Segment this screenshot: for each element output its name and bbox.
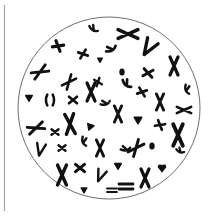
- chromosome-xlong: [87, 83, 95, 101]
- chromosome-bent: [80, 135, 89, 146]
- chromosome-bent: [121, 78, 133, 89]
- chromosome-bent: [183, 83, 192, 94]
- microscope-field-circle: [18, 17, 200, 199]
- chromosome-xlong: [114, 106, 121, 122]
- chromosome-xlong: [27, 122, 45, 134]
- chromosome-cross: [76, 164, 85, 171]
- chromosome-xlong: [118, 30, 138, 39]
- chromosome-xlong: [177, 107, 191, 113]
- chromosome-tri: [26, 96, 32, 102]
- chromosome-cross: [52, 41, 63, 52]
- chromosome-xlong: [65, 114, 75, 134]
- chromosome-cross: [52, 129, 59, 135]
- chromosome-v: [94, 169, 106, 183]
- chromosome-bent: [104, 42, 116, 53]
- chromosome-xlong: [170, 57, 178, 75]
- chromosome-tri: [86, 124, 94, 131]
- chromosome-eq: [119, 184, 133, 189]
- chromosome-v: [35, 143, 46, 156]
- chromosome-v: [139, 38, 158, 58]
- chromosome-heart: [158, 165, 165, 172]
- chromosome-cross: [69, 97, 77, 103]
- metaphase-spread-figure: [0, 0, 215, 216]
- chromosome-xlong: [58, 165, 67, 185]
- chromosome-tri: [115, 164, 121, 170]
- chromosome-cross: [78, 50, 88, 59]
- chromosome-tri: [81, 188, 87, 193]
- chromosome-xlong: [173, 124, 183, 146]
- chromosome-xlong: [31, 65, 49, 79]
- chromosome-cross: [155, 120, 165, 130]
- chromosome-bent: [99, 97, 110, 106]
- chromosome-xlong: [96, 140, 103, 156]
- chromosome-tri: [134, 117, 141, 123]
- chromosome-cross: [137, 88, 147, 97]
- chromosome-cross: [59, 145, 66, 151]
- chromosome-xlong: [62, 74, 76, 89]
- chromosome-dot: [119, 68, 124, 75]
- chromosome-xlong: [141, 169, 149, 187]
- chromosome-bent: [88, 24, 99, 32]
- chromosome-tri: [98, 58, 103, 62]
- chromosome-cross: [143, 69, 153, 78]
- chromosome-paren: [46, 95, 54, 106]
- chromosome-group: [26, 24, 193, 193]
- chromosome-eq: [107, 189, 117, 193]
- chromosome-bent: [176, 147, 185, 153]
- chromosome-dot: [149, 142, 154, 149]
- chromosome-xlong: [156, 94, 163, 110]
